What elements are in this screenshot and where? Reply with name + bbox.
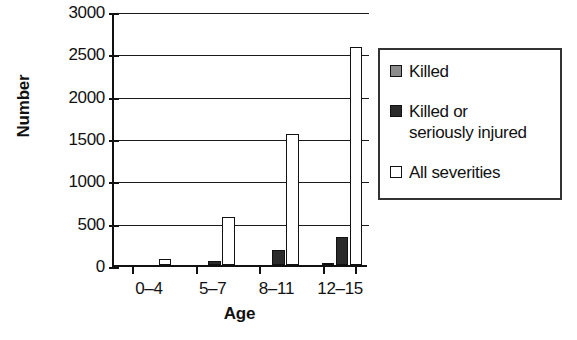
x-axis-tick [132, 265, 134, 274]
y-axis-title: Number [14, 46, 34, 166]
x-axis-tick-label: 12–15 [317, 279, 363, 299]
legend-swatch-ksi-icon [390, 105, 402, 117]
bar-group [242, 13, 306, 265]
x-axis-tick-label: 8–11 [259, 279, 294, 299]
y-axis-tick-label: 1500 [68, 130, 105, 150]
legend-swatch-all-severities-icon [390, 166, 402, 178]
bar-group [114, 13, 178, 265]
legend-swatch-killed-icon [390, 65, 402, 77]
legend-label-ksi: Killed orseriously injured [409, 101, 527, 143]
bar [272, 250, 285, 265]
x-axis-tick [196, 265, 198, 274]
legend-item-killed-or-seriously-injured: Killed orseriously injured [390, 101, 560, 143]
bar [208, 261, 221, 265]
x-axis-tick [259, 265, 261, 274]
bar [350, 47, 363, 265]
bar-group [305, 13, 369, 265]
x-axis-tick-label: 0–4 [135, 279, 162, 299]
legend-label-killed: Killed [409, 61, 449, 82]
y-axis-tick-label: 2500 [68, 45, 105, 65]
y-axis-tick-label: 500 [78, 215, 105, 235]
legend-item-all-severities: All severities [390, 162, 560, 183]
legend-label-all-severities: All severities [409, 162, 500, 183]
bar [159, 259, 172, 265]
plot-area: 0500100015002000250030000–45–78–1112–15 [112, 13, 367, 267]
legend-label-ksi-line2: seriously injured [409, 123, 527, 142]
y-axis-tick [109, 267, 119, 269]
bar [222, 217, 235, 265]
y-axis-tick-label: 1000 [68, 172, 105, 192]
x-axis-title: Age [112, 304, 367, 324]
x-axis-tick [323, 265, 325, 274]
legend-label-ksi-line1: Killed or [409, 102, 468, 121]
y-axis-tick-label: 2000 [68, 88, 105, 108]
bar [286, 134, 299, 265]
y-axis-tick-label: 3000 [68, 3, 105, 23]
bar [336, 237, 349, 265]
legend-item-killed: Killed [390, 61, 560, 82]
y-axis-tick-label: 0 [96, 257, 105, 277]
chart-legend: Killed Killed orseriously injured All se… [378, 48, 562, 200]
x-axis-tick-label: 5–7 [199, 279, 226, 299]
x-axis-tick [355, 265, 357, 274]
bar-group [178, 13, 242, 265]
